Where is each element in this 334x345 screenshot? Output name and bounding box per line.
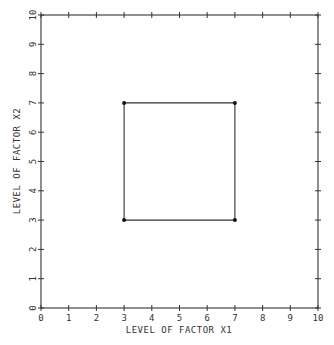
- x-tick-label: 1: [66, 313, 71, 323]
- data-point-marker: [122, 101, 126, 105]
- series-line: [124, 103, 235, 220]
- y-tick-label: 2: [28, 247, 38, 252]
- plot-frame: [41, 15, 318, 308]
- factor-level-chart: 012345678910 012345678910 LEVEL OF FACTO…: [0, 0, 334, 345]
- y-tick-label: 7: [28, 100, 38, 105]
- x-tick-label: 9: [288, 313, 293, 323]
- x-tick-label: 7: [232, 313, 237, 323]
- y-tick-label: 8: [28, 71, 38, 76]
- x-tick-label: 8: [260, 313, 265, 323]
- data-point-marker: [122, 218, 126, 222]
- y-tick-label: 9: [28, 42, 38, 47]
- y-tick-label: 0: [28, 305, 38, 310]
- plot-border: [41, 15, 318, 308]
- x-tick-label: 2: [94, 313, 99, 323]
- y-tick-label: 3: [28, 217, 38, 222]
- data-point-marker: [233, 101, 237, 105]
- y-tick-label: 5: [28, 159, 38, 164]
- y-axis-title: LEVEL OF FACTOR X2: [12, 108, 22, 215]
- axis-ticks: [38, 12, 321, 311]
- x-axis-title: LEVEL OF FACTOR X1: [126, 325, 233, 335]
- x-tick-label: 6: [204, 313, 209, 323]
- x-tick-label: 3: [121, 313, 126, 323]
- y-tick-label: 6: [28, 129, 38, 134]
- data-point-marker: [233, 218, 237, 222]
- y-tick-label: 1: [28, 276, 38, 281]
- x-tick-label: 5: [177, 313, 182, 323]
- y-tick-label: 4: [28, 188, 38, 193]
- y-tick-labels: 012345678910: [28, 10, 38, 311]
- x-tick-label: 10: [313, 313, 324, 323]
- x-tick-label: 0: [38, 313, 43, 323]
- y-tick-label: 10: [28, 10, 38, 21]
- x-tick-label: 4: [149, 313, 154, 323]
- x-tick-labels: 012345678910: [38, 313, 323, 323]
- data-series: [122, 101, 237, 222]
